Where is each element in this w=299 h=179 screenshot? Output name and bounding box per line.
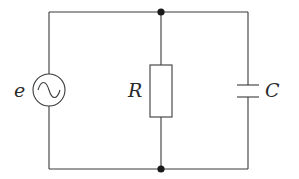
circuit-diagram: e R C (0, 0, 299, 179)
sine-wave-icon (38, 83, 60, 98)
top-junction-dot (157, 8, 164, 15)
wires (49, 12, 248, 169)
capacitor-label: C (265, 79, 280, 101)
source-label: e (14, 79, 25, 101)
bottom-junction-dot (157, 165, 164, 172)
resistor-label: R (127, 79, 142, 101)
resistor-symbol (150, 65, 172, 117)
capacitor-symbol (237, 85, 259, 97)
circuit-svg: e R C (0, 0, 299, 179)
ac-source (33, 74, 65, 106)
